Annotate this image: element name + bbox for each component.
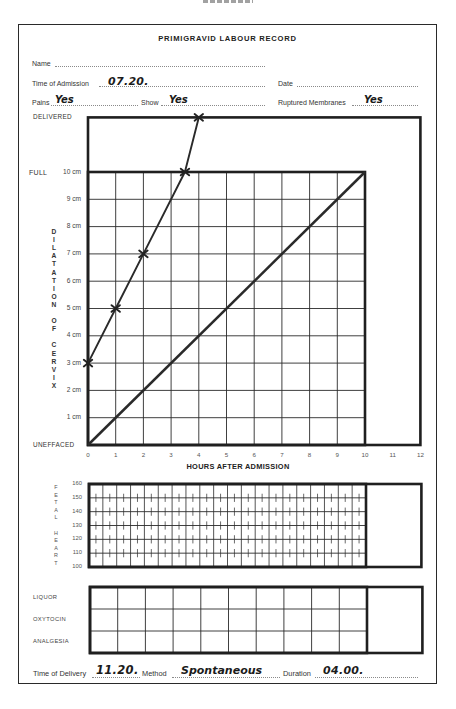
x-tick-label: 6: [244, 452, 264, 458]
x-tick-label: 7: [272, 452, 292, 458]
partogram-graphics: [0, 0, 456, 709]
row-label-oxytocin: OXYTOCIN: [33, 617, 66, 623]
time-of-delivery-value: 11.20.: [96, 665, 139, 677]
y-axis-title-letter: F: [49, 326, 59, 333]
y-tick-label: 6 cm: [41, 278, 81, 285]
x-tick-label: 11: [383, 452, 403, 458]
y-tick-label: 7 cm: [41, 250, 81, 257]
y-axis-title-letter: O: [49, 294, 59, 301]
fhr-title-letter: E: [51, 493, 61, 498]
duration-field-line: [315, 677, 418, 678]
y-axis-label-uneffaced: UNEFFACED: [33, 442, 74, 448]
fhr-title-letter: E: [51, 538, 61, 543]
y-axis-label-delivered: DELIVERED: [33, 114, 72, 120]
y-axis-title-letter: C: [49, 342, 59, 349]
time-of-delivery-label: Time of Delivery: [33, 670, 86, 677]
y-tick-label: 3 cm: [41, 360, 81, 367]
y-axis-title-letter: I: [49, 375, 59, 382]
fhr-title-letter: H: [51, 531, 61, 536]
fhr-title-letter: A: [51, 546, 61, 551]
x-tick-label: 1: [106, 452, 126, 458]
x-tick-label: 9: [327, 452, 347, 458]
x-tick-label: 8: [300, 452, 320, 458]
fhr-title-letter: R: [51, 553, 61, 558]
y-axis-title-letter: L: [49, 245, 59, 252]
x-tick-label: 5: [217, 452, 237, 458]
y-tick-label: 5 cm: [41, 305, 81, 312]
duration-label: Duration: [283, 670, 311, 677]
duration-value: 04.00.: [323, 665, 364, 676]
y-axis-title-letter: T: [49, 278, 59, 285]
fhr-title-letter: A: [51, 508, 61, 513]
y-axis-title-letter: D: [49, 229, 59, 236]
y-axis-title-letter: V: [49, 367, 59, 374]
x-axis-title: HOURS AFTER ADMISSION: [138, 463, 338, 470]
y-tick-label: 9 cm: [41, 196, 81, 203]
x-tick-label: 0: [78, 452, 98, 458]
y-axis-title-letter: N: [49, 302, 59, 309]
y-tick-label: 2 cm: [41, 387, 81, 394]
method-label: Method: [142, 670, 167, 677]
y-axis-title-letter: I: [49, 286, 59, 293]
fhr-tick-label: 130: [52, 523, 82, 529]
method-field-line: [172, 677, 280, 678]
x-tick-label: 2: [133, 452, 153, 458]
y-axis-title-letter: R: [49, 359, 59, 366]
x-tick-label: 12: [410, 452, 430, 458]
x-tick-label: 4: [189, 452, 209, 458]
y-axis-title-letter: A: [49, 253, 59, 260]
y-axis-title-letter: A: [49, 270, 59, 277]
time-of-delivery-field-line: [92, 677, 140, 678]
y-axis-title-letter: E: [49, 351, 59, 358]
y-axis-title-letter: I: [49, 237, 59, 244]
y-tick-label: 1 cm: [41, 414, 81, 421]
x-tick-label: 10: [355, 452, 375, 458]
y-axis-title-letter: T: [49, 261, 59, 268]
fhr-title-letter: T: [51, 500, 61, 505]
method-value: Spontaneous: [181, 665, 262, 676]
fhr-title-letter: L: [51, 515, 61, 520]
row-label-liquor: LIQUOR: [33, 595, 57, 601]
fhr-title-letter: F: [51, 485, 61, 490]
y-tick-label: 8 cm: [41, 223, 81, 230]
y-axis-title-letter: X: [49, 383, 59, 390]
row-label-analgesia: ANALGESIA: [33, 639, 69, 645]
x-tick-label: 3: [161, 452, 181, 458]
fhr-title-letter: T: [51, 561, 61, 566]
y-tick-label: 4 cm: [41, 332, 81, 339]
y-axis-label-full: FULL: [29, 169, 47, 176]
y-axis-title-letter: O: [49, 318, 59, 325]
